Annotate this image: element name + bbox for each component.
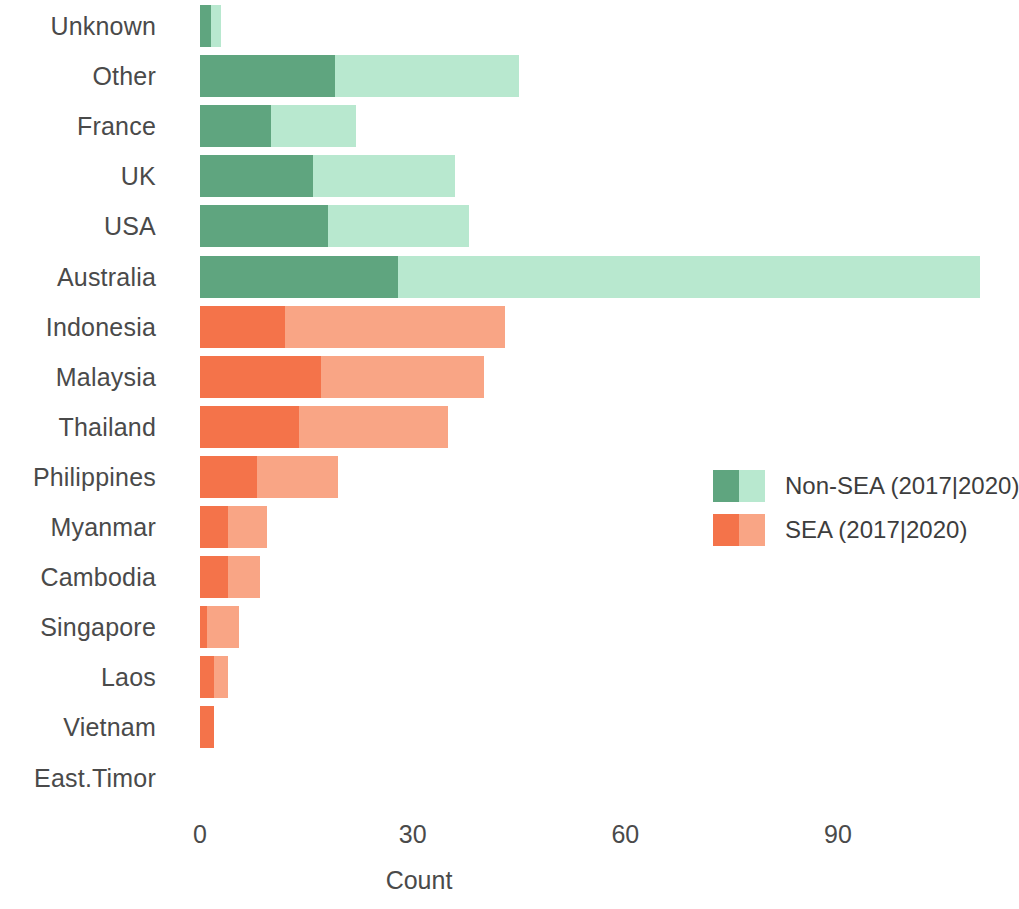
y-axis-category-label: Malaysia [56, 356, 156, 398]
stacked-bar[interactable] [200, 306, 505, 348]
stacked-bar[interactable] [200, 155, 455, 197]
bar-row: USA [0, 205, 999, 255]
bar-segment-2020[interactable] [299, 406, 448, 448]
stacked-bar[interactable] [200, 656, 228, 698]
bar-segment-2020[interactable] [313, 155, 455, 197]
stacked-bar[interactable] [200, 406, 448, 448]
x-axis-title: Count [200, 866, 638, 895]
bar-segment-2017[interactable] [200, 506, 228, 548]
y-axis-category-label: Other [92, 55, 156, 97]
stacked-bar[interactable] [200, 706, 214, 748]
stacked-bar[interactable] [200, 456, 338, 498]
legend-swatch-non-sea-2020 [739, 470, 765, 502]
x-axis-tick-label: 30 [399, 820, 427, 849]
y-axis-category-label: Thailand [59, 406, 157, 448]
y-axis-category-label: Australia [57, 256, 156, 298]
legend-swatch-sea [713, 514, 765, 546]
y-axis-category-label: Philippines [33, 456, 156, 498]
bar-segment-2017[interactable] [200, 656, 214, 698]
legend-swatch-sea-2020 [739, 514, 765, 546]
bar-row: Indonesia [0, 306, 999, 356]
bar-row: Laos [0, 656, 999, 706]
bar-segment-2020[interactable] [228, 506, 267, 548]
y-axis-category-label: Singapore [40, 606, 156, 648]
bar-row: France [0, 105, 999, 155]
y-axis-category-label: Vietnam [63, 706, 156, 748]
legend-item-non-sea[interactable]: Non-SEA (2017|2020) [713, 466, 999, 510]
stacked-bar[interactable] [200, 5, 221, 47]
y-axis-category-label: Indonesia [46, 306, 156, 348]
y-axis-category-label: Myanmar [50, 506, 156, 548]
bar-row: Singapore [0, 606, 999, 656]
bar-row: Unknown [0, 5, 999, 55]
stacked-bar[interactable] [200, 506, 267, 548]
bar-row: East.Timor [0, 757, 999, 807]
bar-segment-2020[interactable] [257, 456, 339, 498]
bar-row: UK [0, 155, 999, 205]
bar-segment-2017[interactable] [200, 155, 313, 197]
bar-segment-2020[interactable] [207, 606, 239, 648]
bar-segment-2017[interactable] [200, 556, 228, 598]
y-axis-category-label: UK [121, 155, 156, 197]
y-axis-category-label: Laos [101, 656, 156, 698]
bar-segment-2017[interactable] [200, 606, 207, 648]
y-axis-category-label: France [77, 105, 156, 147]
stacked-bar[interactable] [200, 55, 519, 97]
bar-segment-2020[interactable] [228, 556, 260, 598]
x-axis-tick-label: 90 [824, 820, 852, 849]
bar-segment-2017[interactable] [200, 356, 321, 398]
bar-row: Australia [0, 256, 999, 306]
y-axis-category-label: East.Timor [34, 757, 156, 799]
bar-segment-2017[interactable] [200, 205, 328, 247]
stacked-bar[interactable] [200, 105, 356, 147]
stacked-bar[interactable] [200, 256, 980, 298]
stacked-bar[interactable] [200, 356, 484, 398]
bar-segment-2017[interactable] [200, 306, 285, 348]
bar-segment-2020[interactable] [335, 55, 519, 97]
y-axis-category-label: Cambodia [40, 556, 156, 598]
stacked-bar[interactable] [200, 205, 469, 247]
legend-swatch-sea-2017 [713, 514, 739, 546]
bar-segment-2020[interactable] [271, 105, 356, 147]
bar-row: Malaysia [0, 356, 999, 406]
legend-label-non-sea: Non-SEA (2017|2020) [785, 466, 1019, 506]
bar-segment-2017[interactable] [200, 706, 214, 748]
bar-segment-2017[interactable] [200, 456, 257, 498]
bar-row: Cambodia [0, 556, 999, 606]
bar-segment-2020[interactable] [285, 306, 505, 348]
bar-segment-2020[interactable] [398, 256, 979, 298]
x-axis: 0306090 Count [0, 810, 999, 909]
y-axis-category-label: USA [104, 205, 156, 247]
bar-row: Other [0, 55, 999, 105]
plot-area: UnknownOtherFranceUKUSAAustraliaIndonesi… [0, 0, 999, 810]
bar-segment-2020[interactable] [214, 656, 228, 698]
chart-legend: Non-SEA (2017|2020) SEA (2017|2020) [713, 466, 999, 554]
bar-segment-2017[interactable] [200, 55, 335, 97]
legend-item-sea[interactable]: SEA (2017|2020) [713, 510, 999, 554]
bar-row: Thailand [0, 406, 999, 456]
x-axis-tick-label: 0 [193, 820, 207, 849]
legend-swatch-non-sea [713, 470, 765, 502]
legend-label-sea: SEA (2017|2020) [785, 510, 967, 550]
bar-segment-2017[interactable] [200, 406, 299, 448]
bar-segment-2020[interactable] [211, 5, 222, 47]
bar-segment-2017[interactable] [200, 5, 211, 47]
y-axis-category-label: Unknown [50, 5, 156, 47]
x-axis-tick-label: 60 [611, 820, 639, 849]
bar-segment-2017[interactable] [200, 256, 398, 298]
stacked-bar[interactable] [200, 556, 260, 598]
bar-segment-2017[interactable] [200, 105, 271, 147]
bar-row: Vietnam [0, 706, 999, 756]
bar-segment-2020[interactable] [321, 356, 484, 398]
bar-segment-2020[interactable] [328, 205, 470, 247]
stacked-bar[interactable] [200, 606, 239, 648]
legend-swatch-non-sea-2017 [713, 470, 739, 502]
